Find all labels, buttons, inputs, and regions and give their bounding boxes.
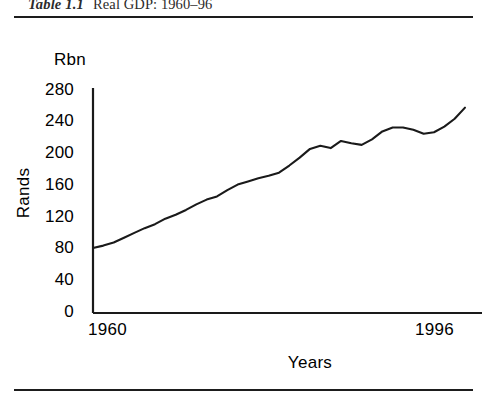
y-tick-160: 160 bbox=[20, 175, 74, 195]
y-tick-80: 80 bbox=[20, 238, 74, 258]
y-tick-40: 40 bbox=[20, 270, 74, 290]
axis-lines bbox=[93, 88, 482, 313]
x-tick-1960: 1960 bbox=[88, 320, 127, 340]
gdp-line-chart bbox=[0, 20, 487, 390]
x-axis-title: Years bbox=[255, 353, 365, 373]
y-tick-120: 120 bbox=[20, 207, 74, 227]
y-tick-0: 0 bbox=[20, 302, 74, 322]
figure-page: Table 1.1Real GDP: 1960–96 Rbn Rands 280… bbox=[0, 0, 487, 404]
y-tick-200: 200 bbox=[20, 143, 74, 163]
gdp-data-line bbox=[93, 108, 465, 248]
chart-area: Rbn Rands 280 240 200 160 120 80 40 0 19… bbox=[0, 20, 487, 390]
rule-bottom bbox=[14, 389, 473, 391]
caption-title: Real GDP: 1960–96 bbox=[93, 0, 212, 12]
y-tick-280: 280 bbox=[20, 80, 74, 100]
y-tick-240: 240 bbox=[20, 111, 74, 131]
x-tick-1996: 1996 bbox=[415, 320, 454, 340]
caption-label: Table 1.1 bbox=[28, 0, 84, 12]
y-unit-label: Rbn bbox=[54, 50, 86, 70]
table-caption: Table 1.1Real GDP: 1960–96 bbox=[28, 0, 468, 12]
rule-top bbox=[14, 16, 473, 18]
